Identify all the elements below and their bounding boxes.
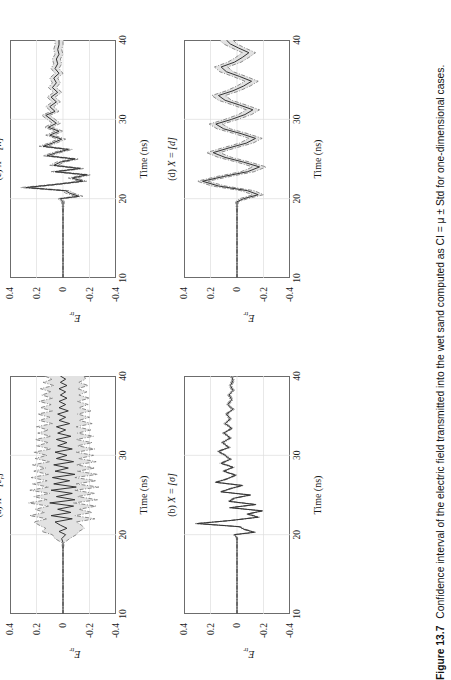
- x-tick-label: 10: [118, 273, 128, 283]
- x-tick-label: 20: [292, 530, 302, 540]
- panel-b-ylabel: Etr: [244, 646, 255, 660]
- x-tick-label: 30: [118, 451, 128, 461]
- x-tick-label: 30: [292, 115, 302, 125]
- y-tick-label: 0: [232, 618, 242, 665]
- panel-b: (b) X = [σ] 0.40.20-0.2-0.4 10203040 Etr…: [174, 360, 324, 660]
- panel-a-plot: [10, 376, 116, 614]
- y-tick-label: -0.2: [85, 282, 95, 329]
- panel-b-yticks: 0.40.20-0.2-0.4: [184, 618, 290, 660]
- y-tick-label: 0.2: [32, 282, 42, 329]
- x-tick-label: 40: [118, 371, 128, 381]
- y-tick-label: 0.4: [5, 618, 15, 665]
- y-tick-label: 0.4: [179, 618, 189, 665]
- x-tick-label: 10: [118, 609, 128, 619]
- panel-b-xticks: 10203040: [292, 376, 304, 614]
- panel-d: (d) X = [d] 0.40.20-0.2-0.4 10203040 Etr…: [174, 24, 324, 324]
- x-tick-label: 40: [292, 371, 302, 381]
- panel-b-xlabel: Time (ns): [312, 376, 323, 614]
- panel-a-xlabel: Time (ns): [138, 376, 149, 614]
- panel-d-xlabel: Time (ns): [312, 40, 323, 278]
- panel-c-xticks: 10203040: [118, 40, 130, 278]
- y-tick-label: 0.2: [32, 618, 42, 665]
- y-tick-label: -0.4: [111, 282, 121, 329]
- y-tick-label: 0.2: [206, 282, 216, 329]
- panel-c-title: (c) X = [h]: [0, 40, 3, 278]
- x-tick-label: 10: [292, 609, 302, 619]
- panel-c-plot: [10, 40, 116, 278]
- panel-a-xticks: 10203040: [118, 376, 130, 614]
- x-tick-label: 10: [292, 273, 302, 283]
- x-tick-label: 20: [292, 194, 302, 204]
- panel-a-yticks: 0.40.20-0.2-0.4: [10, 618, 116, 660]
- y-tick-label: 0: [58, 282, 68, 329]
- y-tick-label: -0.4: [285, 282, 295, 329]
- panel-d-xticks: 10203040: [292, 40, 304, 278]
- y-tick-label: -0.4: [285, 618, 295, 665]
- y-tick-label: 0.4: [5, 282, 15, 329]
- panel-c: (c) X = [h] 0.40.20-0.2-0.4 10203040 Etr…: [0, 24, 150, 324]
- x-tick-label: 20: [118, 530, 128, 540]
- panel-b-title: (b) X = [σ]: [166, 376, 177, 614]
- panel-a: (a) X = [εr] 0.40.20-0.2-0.4 10203040 Et…: [0, 360, 150, 660]
- plot-matrix: (a) X = [εr] 0.40.20-0.2-0.4 10203040 Et…: [0, 0, 336, 660]
- figure-number: Figure 13.7: [435, 626, 446, 680]
- x-tick-label: 40: [118, 35, 128, 45]
- panel-c-xlabel: Time (ns): [138, 40, 149, 278]
- x-tick-label: 30: [118, 115, 128, 125]
- y-tick-label: -0.2: [259, 282, 269, 329]
- y-tick-label: -0.2: [85, 618, 95, 665]
- panel-d-yticks: 0.40.20-0.2-0.4: [184, 282, 290, 324]
- figure-caption-text: Confidence interval of the electric fiel…: [435, 65, 446, 619]
- panel-c-yticks: 0.40.20-0.2-0.4: [10, 282, 116, 324]
- y-tick-label: 0.4: [179, 282, 189, 329]
- y-tick-label: 0: [232, 282, 242, 329]
- panel-d-title: (d) X = [d]: [166, 40, 177, 278]
- x-tick-label: 30: [292, 451, 302, 461]
- panel-d-ylabel: Etr: [244, 310, 255, 324]
- y-tick-label: 0.2: [206, 618, 216, 665]
- x-tick-label: 20: [118, 194, 128, 204]
- figure-caption: Figure 13.7Confidence interval of the el…: [434, 0, 451, 680]
- y-tick-label: -0.2: [259, 618, 269, 665]
- y-tick-label: -0.4: [111, 618, 121, 665]
- x-tick-label: 40: [292, 35, 302, 45]
- y-tick-label: 0: [58, 618, 68, 665]
- panel-a-title: (a) X = [εr]: [0, 376, 6, 614]
- panel-b-plot: [184, 376, 290, 614]
- panel-a-ylabel: Etr: [70, 646, 81, 660]
- panel-d-plot: [184, 40, 290, 278]
- panel-c-ylabel: Etr: [70, 310, 81, 324]
